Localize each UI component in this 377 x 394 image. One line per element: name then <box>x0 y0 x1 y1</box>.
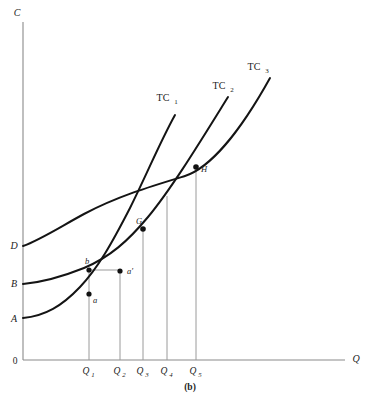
curve-label-tc3: TC 3 <box>248 61 270 75</box>
curve-label-tc3-sub: 3 <box>265 67 269 75</box>
point-label-h: H <box>200 164 208 174</box>
point-b-dot <box>86 267 91 272</box>
point-a-prime-dot <box>117 268 122 273</box>
curve-label-tc1: TC 1 <box>157 92 179 106</box>
point-label-a-prime: a' <box>127 266 133 276</box>
x-tick-q1-sub: 1 <box>91 371 94 378</box>
x-tick-q4-text: Q <box>161 366 168 376</box>
curve-label-tc1-text: TC <box>157 92 170 103</box>
x-tick-q4: Q 4 <box>161 366 174 378</box>
intercept-label-b: B <box>11 278 17 289</box>
curve-label-tc2: TC 2 <box>213 80 235 94</box>
point-h-dot <box>193 164 199 170</box>
point-label-g: G <box>136 216 142 226</box>
curve-label-tc2-text: TC <box>213 80 226 91</box>
x-tick-q5-sub: 5 <box>198 371 202 378</box>
x-tick-q5-text: Q <box>190 366 197 376</box>
x-tick-q4-sub: 4 <box>169 371 173 378</box>
point-label-b: b <box>85 256 89 266</box>
x-tick-q5: Q 5 <box>190 366 203 378</box>
point-label-a: a <box>93 295 97 305</box>
point-g-dot <box>140 226 146 232</box>
x-tick-q1: Q 1 <box>83 366 95 378</box>
x-tick-q3: Q 3 <box>137 366 150 378</box>
y-axis-label: C <box>14 7 21 18</box>
origin-label: 0 <box>13 356 18 366</box>
point-a-dot <box>86 291 91 296</box>
curve-label-tc2-sub: 2 <box>230 86 234 94</box>
x-tick-q3-sub: 3 <box>144 371 149 378</box>
curve-label-tc3-text: TC <box>248 61 261 72</box>
x-tick-q3-text: Q <box>137 366 144 376</box>
x-tick-q2-sub: 2 <box>122 371 126 378</box>
x-axis-label: Q <box>352 353 360 364</box>
curve-tc2 <box>23 97 228 284</box>
x-tick-q2: Q 2 <box>114 366 127 378</box>
cost-curves-figure: C Q 0 D B A a b a' G H TC 1 <box>0 0 377 394</box>
x-tick-q1-text: Q <box>83 366 90 376</box>
curve-tc1 <box>23 115 175 318</box>
curve-tc3 <box>23 78 270 246</box>
x-tick-q2-text: Q <box>114 366 121 376</box>
chart-canvas: C Q 0 D B A a b a' G H TC 1 <box>0 0 377 394</box>
intercept-label-a: A <box>10 313 18 324</box>
figure-caption: (b) <box>184 382 196 393</box>
curve-label-tc1-sub: 1 <box>174 98 178 106</box>
intercept-label-d: D <box>9 240 18 251</box>
